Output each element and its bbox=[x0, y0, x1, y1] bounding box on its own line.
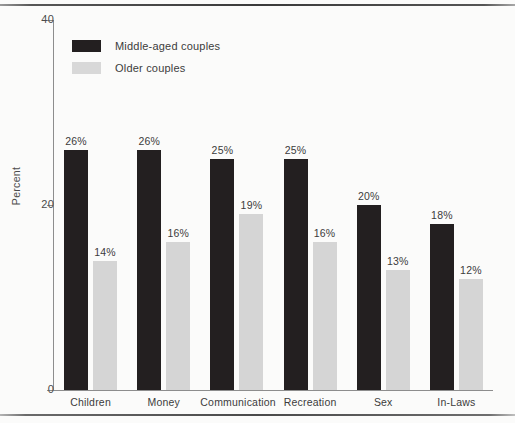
y-tick-40: 40 bbox=[0, 20, 54, 21]
chart-legend: Middle-aged couplesOlder couples bbox=[72, 36, 220, 80]
y-tick-20: 20 bbox=[0, 205, 54, 206]
x-axis-line bbox=[53, 390, 493, 391]
bar-value-label: 16% bbox=[307, 227, 343, 239]
bar bbox=[313, 242, 337, 390]
bar bbox=[93, 261, 117, 391]
bar-value-label: 25% bbox=[278, 144, 314, 156]
bar bbox=[386, 270, 410, 390]
bar-value-label: 16% bbox=[160, 227, 196, 239]
x-axis-label-in-laws: In-Laws bbox=[420, 396, 493, 408]
x-axis-label-recreation: Recreation bbox=[274, 396, 347, 408]
bar bbox=[210, 159, 234, 390]
scan-rule-top bbox=[0, 4, 515, 6]
legend-swatch-dark bbox=[72, 40, 101, 52]
bar bbox=[64, 150, 88, 391]
bar-value-label: 26% bbox=[58, 135, 94, 147]
bar bbox=[284, 159, 308, 390]
y-tick-label: 20 bbox=[22, 198, 54, 210]
legend-item: Middle-aged couples bbox=[72, 36, 220, 55]
x-axis-label-communication: Communication bbox=[200, 396, 273, 408]
legend-item: Older couples bbox=[72, 58, 220, 77]
y-tick-0: 0 bbox=[0, 390, 54, 391]
bar bbox=[357, 205, 381, 390]
bar-value-label: 25% bbox=[204, 144, 240, 156]
bar-value-label: 14% bbox=[87, 246, 123, 258]
x-axis-label-sex: Sex bbox=[347, 396, 420, 408]
bar bbox=[166, 242, 190, 390]
bar-value-label: 20% bbox=[351, 190, 387, 202]
bar-value-label: 26% bbox=[131, 135, 167, 147]
bar-value-label: 18% bbox=[424, 209, 460, 221]
legend-label: Middle-aged couples bbox=[115, 40, 220, 52]
scan-rule-bottom bbox=[0, 414, 515, 416]
bar-value-label: 12% bbox=[453, 264, 489, 276]
y-tick-label: 40 bbox=[22, 13, 54, 25]
y-tick-label: 0 bbox=[22, 383, 54, 395]
y-axis-title: Percent bbox=[10, 156, 22, 216]
bar bbox=[430, 224, 454, 391]
x-axis-label-children: Children bbox=[54, 396, 127, 408]
bar-value-label: 13% bbox=[380, 255, 416, 267]
legend-label: Older couples bbox=[115, 62, 185, 74]
chart-figure: Percent 40200 26%14%26%16%25%19%25%16%20… bbox=[0, 0, 515, 423]
bar bbox=[137, 150, 161, 391]
bar-value-label: 19% bbox=[233, 199, 269, 211]
x-axis-label-money: Money bbox=[127, 396, 200, 408]
legend-swatch-light bbox=[72, 62, 101, 74]
bar bbox=[459, 279, 483, 390]
bar bbox=[239, 214, 263, 390]
